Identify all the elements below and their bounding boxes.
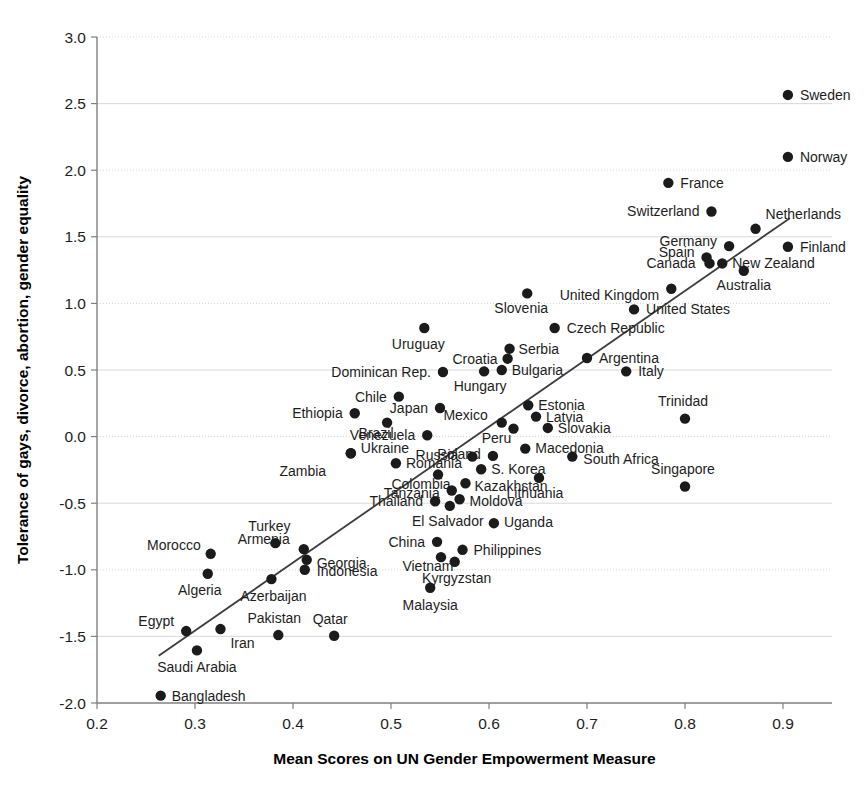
data-point-label: United States (646, 301, 730, 317)
x-axis-title: Mean Scores on UN Gender Empowerment Mea… (273, 750, 656, 767)
data-point (543, 423, 553, 433)
data-point-label: Finland (800, 239, 846, 255)
data-point (205, 549, 215, 559)
data-point (629, 304, 639, 314)
data-point (549, 323, 559, 333)
data-point (391, 458, 401, 468)
y-tick-label: -1.5 (59, 628, 86, 645)
data-point-label: Switzerland (627, 203, 699, 219)
data-point (704, 258, 714, 268)
data-point-label: Uganda (504, 514, 553, 530)
y-tick-label: -2.0 (59, 695, 86, 712)
data-point-label: Armenia (238, 531, 290, 547)
data-point-label: Romania (406, 455, 462, 471)
data-point (783, 152, 793, 162)
data-point-label: Algeria (178, 582, 222, 598)
y-tick-label: 0.0 (64, 428, 86, 445)
data-point (215, 624, 225, 634)
data-point-label: Trinidad (658, 393, 708, 409)
data-point-label: Australia (717, 277, 772, 293)
data-point (489, 518, 499, 528)
y-tick-label: 2.0 (64, 162, 86, 179)
data-point (467, 451, 477, 461)
x-tick-label: 0.2 (86, 715, 108, 732)
data-point (350, 408, 360, 418)
data-point (299, 544, 309, 554)
data-point-label: Uruguay (392, 336, 445, 352)
data-point-label: Chile (355, 389, 387, 405)
data-point-label: Slovenia (494, 300, 548, 316)
data-point-label: Morocco (147, 537, 201, 553)
y-tick-label: -0.5 (59, 495, 86, 512)
data-point-label: France (680, 175, 724, 191)
data-point-label: China (388, 534, 425, 550)
data-point-label: Malaysia (403, 597, 458, 613)
data-point (419, 323, 429, 333)
data-point-label: Bulgaria (512, 362, 564, 378)
data-point-label: Azerbaijan (240, 588, 306, 604)
data-point (181, 626, 191, 636)
data-point (621, 366, 631, 376)
data-point-label: Japan (390, 400, 428, 416)
data-point (497, 365, 507, 375)
data-point (680, 481, 690, 491)
data-point (266, 574, 276, 584)
data-point-label: Italy (638, 363, 664, 379)
data-point (302, 555, 312, 565)
x-tick-label: 0.8 (674, 715, 696, 732)
x-tick-label: 0.6 (478, 715, 500, 732)
data-point (531, 411, 541, 421)
data-point-label: Sweden (800, 87, 851, 103)
data-point-label: Serbia (519, 341, 560, 357)
data-point-label: Croatia (452, 351, 497, 367)
data-point (425, 583, 435, 593)
data-point-label: Thailand (369, 493, 423, 509)
data-point (663, 178, 673, 188)
data-point-label: Moldova (470, 493, 523, 509)
data-point (476, 464, 486, 474)
data-point (447, 485, 457, 495)
y-axis-ticks: 3.02.52.01.51.00.50.0-0.5-1.0-1.5-2.0 (59, 29, 97, 712)
data-point-label: Mexico (443, 407, 488, 423)
x-tick-label: 0.9 (772, 715, 794, 732)
data-point-label: Dominican Rep. (331, 364, 431, 380)
data-point-label: Bangladesh (172, 688, 246, 704)
data-point (520, 443, 530, 453)
data-point (706, 206, 716, 216)
data-point (783, 242, 793, 252)
data-point-label: Peru (482, 430, 512, 446)
data-point (582, 353, 592, 363)
y-tick-label: 0.5 (64, 362, 86, 379)
data-point (203, 569, 213, 579)
plot-canvas: 3.02.52.01.51.00.50.0-0.5-1.0-1.5-2.0 0.… (0, 0, 865, 790)
data-point (534, 473, 544, 483)
data-point (783, 90, 793, 100)
data-point (454, 494, 464, 504)
data-point (567, 451, 577, 461)
x-tick-label: 0.4 (282, 715, 304, 732)
data-point-label: Indonesia (317, 563, 378, 579)
data-point-label: Iran (230, 635, 254, 651)
data-point (479, 366, 489, 376)
data-point-label: Czech Republic (567, 320, 665, 336)
data-point (522, 288, 532, 298)
data-point-label: Norway (800, 149, 847, 165)
data-point (750, 224, 760, 234)
data-point (438, 367, 448, 377)
data-point (680, 413, 690, 423)
data-point (450, 557, 460, 567)
data-point-label: Egypt (138, 613, 174, 629)
data-point (724, 241, 734, 251)
data-point-label: Qatar (313, 611, 348, 627)
y-tick-label: 3.0 (64, 29, 86, 46)
y-tick-label: 1.0 (64, 295, 86, 312)
x-tick-label: 0.5 (380, 715, 402, 732)
data-point (666, 284, 676, 294)
y-tick-label: 1.5 (64, 228, 86, 245)
data-point-label: Slovakia (558, 420, 611, 436)
data-point (273, 630, 283, 640)
data-point (445, 501, 455, 511)
data-point (432, 537, 442, 547)
data-points: SwedenNorwayFranceSwitzerlandNetherlands… (138, 87, 850, 704)
data-point (329, 631, 339, 641)
